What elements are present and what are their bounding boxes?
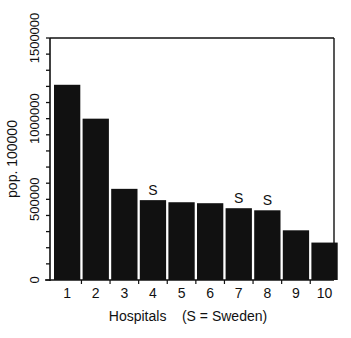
y-axis: 050000010000001500000 [27,13,50,284]
x-tick-label: 10 [317,285,333,301]
bar-hospital-8 [254,210,280,280]
x-tick-label: 4 [149,285,157,301]
bar-chart: 050000010000001500000 SSS 12345678910 po… [0,0,351,338]
sweden-marker: S [263,192,272,208]
y-tick-label: 1500000 [27,13,42,64]
bar-hospital-5 [168,202,194,280]
x-tick-label: 3 [120,285,128,301]
bar-hospital-7 [226,208,252,280]
x-tick-label: 7 [235,285,243,301]
x-tick-label: 8 [263,285,271,301]
x-tick-label: 5 [178,285,186,301]
y-tick-label: 500000 [27,178,42,221]
sweden-marker: S [148,182,157,198]
bar-hospital-1 [54,85,80,280]
x-tick-label: 2 [92,285,100,301]
bars [54,85,338,280]
bar-hospital-2 [83,119,109,280]
bar-hospital-9 [283,230,309,280]
x-tick-label: 9 [292,285,300,301]
x-tick-label: 6 [206,285,214,301]
y-tick-label: 1000000 [27,93,42,144]
bar-hospital-4 [140,200,166,280]
x-tick-label: 1 [63,285,71,301]
x-axis-label: Hospitals (S = Sweden) [109,308,267,324]
bar-hospital-3 [111,189,137,280]
bar-hospital-10 [311,243,337,280]
sweden-marker: S [234,190,243,206]
x-axis: 12345678910 [63,280,332,301]
y-axis-label: pop. 100000 [4,120,20,198]
y-tick-label: 0 [27,276,42,283]
bar-hospital-6 [197,203,223,280]
